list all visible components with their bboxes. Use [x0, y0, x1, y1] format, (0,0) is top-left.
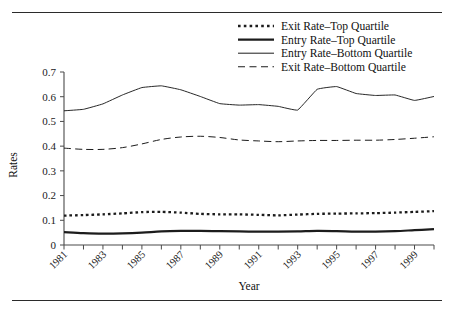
series-lines — [64, 86, 434, 234]
y-tick-label: 0.5 — [42, 115, 56, 127]
x-axis-title: Year — [238, 280, 259, 292]
legend-label-entry_bottom: Entry Rate–Bottom Quartile — [281, 47, 412, 60]
y-axis: 00.10.20.30.40.50.60.7 — [42, 66, 64, 251]
x-tick-label: 1991 — [242, 249, 265, 272]
series-exit-rate-top-quartile — [64, 211, 434, 215]
x-tick-label: 1985 — [125, 249, 148, 272]
x-tick-label: 1995 — [319, 249, 342, 272]
series-exit-rate-bottom-quartile — [64, 136, 434, 149]
y-tick-label: 0.1 — [42, 214, 56, 226]
series-entry-rate-bottom-quartile — [64, 86, 434, 111]
x-tick-label: 1983 — [86, 249, 109, 272]
legend-label-entry_top: Entry Rate–Top Quartile — [281, 34, 395, 47]
x-axis: 1981198319851987198919911993199519971999 — [47, 245, 434, 271]
x-tick-label: 1981 — [47, 249, 70, 272]
legend-label-exit_top: Exit Rate–Top Quartile — [281, 20, 389, 33]
legend-label-exit_bottom: Exit Rate–Bottom Quartile — [281, 61, 406, 74]
series-entry-rate-top-quartile — [64, 229, 434, 233]
y-tick-label: 0.3 — [42, 165, 56, 177]
x-tick-label: 1993 — [280, 249, 303, 272]
x-tick-label: 1989 — [203, 249, 226, 272]
y-tick-label: 0.2 — [42, 189, 56, 201]
line-chart: Exit Rate–Top QuartileEntry Rate–Top Qua… — [0, 0, 454, 316]
figure-container: Exit Rate–Top QuartileEntry Rate–Top Qua… — [0, 0, 454, 316]
y-tick-label: 0.7 — [42, 66, 56, 78]
x-tick-label: 1999 — [397, 249, 420, 272]
x-tick-label: 1987 — [164, 249, 187, 272]
x-tick-label: 1997 — [358, 249, 381, 272]
y-tick-label: 0.4 — [42, 140, 56, 152]
y-axis-title: Rates — [7, 152, 19, 178]
legend: Exit Rate–Top QuartileEntry Rate–Top Qua… — [238, 20, 412, 74]
y-tick-label: 0.6 — [42, 91, 56, 103]
y-tick-label: 0 — [51, 239, 57, 251]
